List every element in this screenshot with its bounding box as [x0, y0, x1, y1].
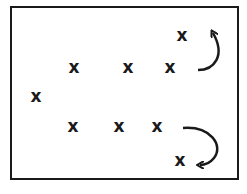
marks-group: x x x x x x x x x	[31, 25, 188, 170]
curved-arrow-up-icon	[198, 33, 219, 70]
x-mark-left: x	[31, 86, 42, 106]
x-mark-upper-2: x	[123, 57, 134, 77]
curved-arrow-down-icon	[183, 128, 217, 165]
x-mark-upper-1: x	[69, 57, 80, 77]
x-mark-lower-1: x	[68, 116, 79, 136]
x-mark-lower-2: x	[114, 116, 125, 136]
x-mark-bottom-right: x	[175, 150, 186, 170]
x-mark-top-right: x	[177, 25, 188, 45]
x-mark-lower-3: x	[152, 116, 163, 136]
diagram-canvas: x x x x x x x x x	[0, 0, 247, 194]
x-mark-upper-3: x	[165, 57, 176, 77]
